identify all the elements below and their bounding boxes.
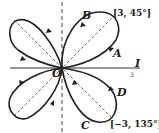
arrow-icon	[20, 56, 26, 61]
origin-label: O	[52, 68, 62, 79]
coord-bottom-label: [−3, 135°]	[110, 120, 159, 129]
arrow-icon	[80, 22, 86, 27]
point-a-label: A	[113, 48, 122, 59]
arrow-icon	[50, 100, 54, 106]
axis-label: I	[135, 58, 140, 69]
diagonal-45	[14, 18, 112, 116]
coord-top-label: [3, 45°]	[113, 9, 151, 18]
point-c-label: C	[81, 120, 90, 131]
point-d-label: D	[117, 87, 127, 98]
arrow-icon	[46, 28, 52, 33]
petal-upper-left	[10, 20, 62, 68]
axis-subscript: 3	[130, 72, 134, 78]
point-b-label: B	[82, 10, 91, 21]
